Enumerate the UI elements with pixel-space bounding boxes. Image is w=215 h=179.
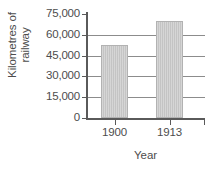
gridline-60000 bbox=[86, 35, 205, 36]
x-axis-title: Year bbox=[86, 150, 205, 162]
y-axis-line bbox=[86, 12, 88, 120]
y-tick-label: 75,000 bbox=[28, 8, 80, 20]
y-tick-label: 45,000 bbox=[28, 50, 80, 62]
y-tick-label: 15,000 bbox=[28, 91, 80, 103]
x-tick-mark-1900 bbox=[115, 118, 116, 125]
y-tick-mark-75000 bbox=[82, 14, 86, 15]
y-tick-label: 30,000 bbox=[28, 71, 80, 83]
y-tick-label: 0 bbox=[28, 112, 80, 124]
bar-chart: Kilometres of railway 75,000 60,000 45,0… bbox=[0, 0, 215, 179]
x-tick-mark-1913 bbox=[170, 118, 171, 125]
y-axis-title-line-1: Kilometres of bbox=[6, 12, 19, 78]
y-tick-mark-0 bbox=[82, 118, 86, 119]
y-tick-label: 60,000 bbox=[28, 29, 80, 41]
x-tick-label-1913: 1913 bbox=[147, 127, 193, 139]
y-tick-mark-60000 bbox=[82, 35, 86, 36]
y-tick-mark-15000 bbox=[82, 97, 86, 98]
y-axis-tick-labels: 75,000 60,000 45,000 30,000 15,000 0 bbox=[28, 14, 80, 118]
y-tick-mark-30000 bbox=[82, 76, 86, 77]
x-tick-mark-end bbox=[204, 118, 205, 125]
y-tick-mark-45000 bbox=[82, 56, 86, 57]
x-axis-line bbox=[86, 118, 205, 120]
bar-1900[interactable] bbox=[101, 45, 128, 119]
x-axis-tick-labels: 1900 1913 bbox=[86, 127, 205, 143]
plot-area bbox=[86, 14, 205, 118]
bar-1913[interactable] bbox=[156, 21, 183, 118]
x-tick-label-1900: 1900 bbox=[92, 127, 138, 139]
